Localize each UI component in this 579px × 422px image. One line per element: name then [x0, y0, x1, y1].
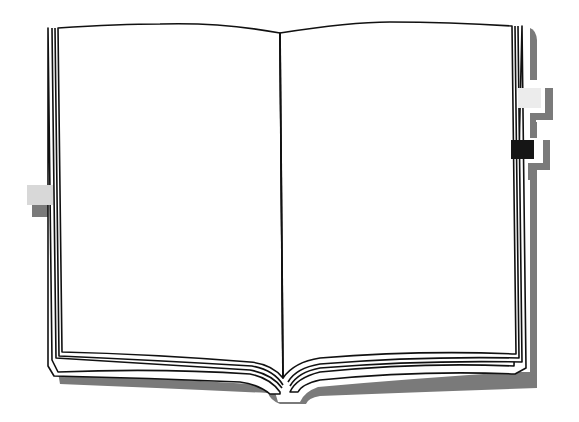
bookmark-tab-left — [27, 185, 53, 205]
bookmark-tab-right-dark — [511, 140, 534, 159]
book-pages — [48, 22, 526, 394]
open-book-illustration — [0, 0, 579, 422]
bookmark-tab-right-pale — [518, 88, 541, 108]
